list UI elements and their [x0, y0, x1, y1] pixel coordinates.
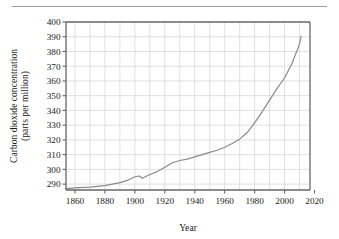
x-tick-label: 1920: [156, 196, 175, 206]
x-tick-label: 2020: [305, 196, 324, 206]
y-tick-label: 400: [47, 17, 61, 27]
y-axis-ticks: 290300310320330340350360370380390400: [47, 17, 66, 189]
y-tick-label: 340: [47, 106, 61, 116]
y-tick-label: 310: [47, 150, 61, 160]
x-tick-label: 1960: [215, 196, 234, 206]
x-axis-title: Year: [179, 222, 197, 233]
x-tick-label: 1940: [186, 196, 205, 206]
y-tick-label: 320: [47, 135, 61, 145]
x-tick-label: 1860: [66, 196, 85, 206]
figure-container: 290300310320330340350360370380390400 186…: [0, 0, 339, 239]
y-axis-title-line1: Carbon dioxide concentration: [8, 49, 19, 163]
y-tick-label: 370: [47, 62, 61, 72]
y-tick-label: 330: [47, 120, 61, 130]
x-tick-label: 2000: [275, 196, 294, 206]
y-tick-label: 380: [47, 47, 61, 57]
x-tick-label: 1980: [245, 196, 264, 206]
y-tick-label: 360: [47, 76, 61, 86]
y-axis-title-line2: (parts per million): [19, 71, 31, 141]
co2-line-chart: 290300310320330340350360370380390400 186…: [0, 0, 339, 239]
plot-area-background: [66, 22, 310, 190]
y-tick-label: 300: [47, 165, 61, 175]
x-tick-label: 1880: [96, 196, 115, 206]
y-tick-label: 290: [47, 179, 61, 189]
x-tick-label: 1900: [126, 196, 145, 206]
y-tick-label: 350: [47, 91, 61, 101]
x-axis-ticks: 186018801900192019401960198020002020: [66, 190, 324, 206]
y-tick-label: 390: [47, 32, 61, 42]
